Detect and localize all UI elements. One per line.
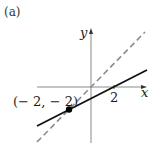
x-tick-label: 2 [110,91,118,104]
panel-label: (a) [4,6,21,18]
x-axis-label: x [141,86,148,99]
figure: (a) y x 2 (− 2, − 2) [0,0,160,153]
y-axis-arrow-icon [89,28,93,34]
plot-canvas [0,0,160,153]
point-label: (− 2, − 2) [13,95,78,108]
y-axis-label: y [80,26,87,39]
